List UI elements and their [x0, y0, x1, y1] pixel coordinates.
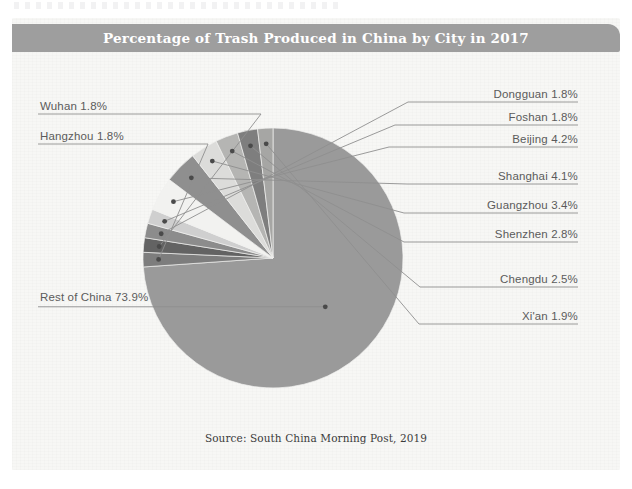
source-note: Source: South China Morning Post, 2019	[0, 432, 632, 444]
pie-chart	[0, 0, 632, 489]
slice-label-shanghai: Shanghai 4.1%	[0, 170, 578, 182]
slice-label-xian: Xi'an 1.9%	[0, 310, 578, 322]
leader-dot-foshan	[162, 219, 167, 224]
slice-label-guangzhou: Guangzhou 3.4%	[0, 199, 578, 211]
leader-dot-guangzhou	[210, 159, 215, 164]
slice-label-chengdu: Chengdu 2.5%	[0, 273, 578, 285]
leader-dot-rest-of-china	[323, 304, 328, 309]
leader-dot-shenzhen	[230, 149, 235, 154]
slice-label-beijing: Beijing 4.2%	[0, 133, 578, 145]
pie-slice-group	[143, 128, 403, 388]
leader-dot-wuhan	[157, 244, 162, 249]
slice-label-foshan: Foshan 1.8%	[0, 111, 578, 123]
slice-label-shenzhen: Shenzhen 2.8%	[0, 228, 578, 240]
leader-dot-hangzhou	[156, 257, 161, 262]
slice-label-rest-of-china: Rest of China 73.9%	[40, 291, 148, 303]
slice-label-dongguan: Dongguan 1.8%	[0, 88, 578, 100]
